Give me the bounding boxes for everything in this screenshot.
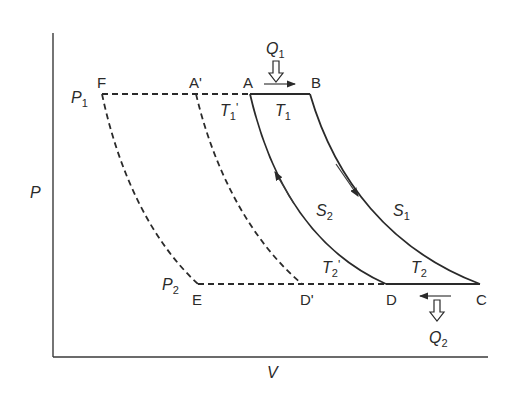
heat-out-arrow-icon — [430, 300, 444, 321]
curve-f-e — [102, 94, 198, 284]
t1-prime-label: T1' — [220, 101, 238, 122]
arrow-down-s1 — [336, 164, 358, 196]
point-aprime-label: A' — [189, 74, 202, 91]
s1-label: S1 — [393, 202, 410, 222]
q1-label: Q1 — [266, 40, 285, 60]
q2-label: Q2 — [429, 329, 448, 349]
t2-label: T2 — [411, 259, 427, 279]
point-c-label: C — [476, 291, 487, 308]
point-f-label: F — [97, 74, 106, 91]
pv-diagram: P V Q1 Q2 P1 P2 F A' A B E D' D C T1' T1… — [0, 0, 521, 402]
s2-label: S2 — [316, 202, 333, 222]
y-axis-label: P — [30, 184, 41, 201]
p1-label: P1 — [71, 89, 88, 109]
x-axis-label: V — [267, 364, 279, 381]
heat-in-arrow-icon — [269, 61, 283, 82]
point-b-label: B — [311, 74, 321, 91]
adiabat-s2-d-a — [250, 94, 386, 284]
adiabat-s1-b-c — [310, 94, 480, 284]
point-e-label: E — [192, 291, 202, 308]
point-a-label: A — [243, 74, 253, 91]
arrow-up-s2 — [275, 172, 294, 204]
point-d-label: D — [386, 291, 397, 308]
point-dprime-label: D' — [300, 291, 314, 308]
t2-prime-label: T2' — [322, 258, 340, 279]
t1-label: T1 — [275, 102, 291, 122]
p2-label: P2 — [162, 276, 179, 296]
axes — [53, 33, 488, 357]
